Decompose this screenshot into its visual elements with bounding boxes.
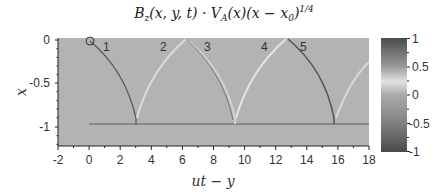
y-tick-neg0.5: -0.5 — [29, 76, 50, 90]
x-axis-label: ut − y — [191, 173, 235, 189]
svg-text:8: 8 — [210, 153, 217, 167]
colorbar — [381, 38, 407, 152]
x-axis — [58, 146, 369, 150]
svg-text:4: 4 — [148, 153, 155, 167]
colorbar-label-neg0.5: -0.5 — [409, 117, 430, 131]
wavefront-label-4: 4 — [261, 40, 268, 54]
svg-text:0: 0 — [86, 153, 93, 167]
svg-text:10: 10 — [238, 153, 252, 167]
wavefront-label-5: 5 — [300, 40, 307, 54]
colorbar-ticks — [407, 39, 410, 152]
colorbar-label-0.5: 0.5 — [412, 60, 429, 74]
chart-svg: 1 2 3 4 5 0 -0.5 -1 x — [0, 0, 448, 195]
svg-text:2: 2 — [117, 153, 124, 167]
y-tick-0: 0 — [43, 33, 50, 47]
wavefront-label-3: 3 — [204, 40, 211, 54]
svg-text:14: 14 — [300, 153, 314, 167]
svg-text:16: 16 — [331, 153, 345, 167]
svg-text:18: 18 — [362, 153, 376, 167]
x-tick-labels: -2 0 2 4 6 8 10 12 14 16 18 — [53, 153, 376, 167]
colorbar-label-1: 1 — [412, 32, 419, 46]
colorbar-label-neg1: -1 — [409, 145, 420, 159]
y-tick-neg1: -1 — [39, 120, 50, 134]
wavefront-label-1: 1 — [103, 40, 110, 54]
y-axis-label: x — [13, 88, 29, 96]
wavefront-label-2: 2 — [160, 40, 167, 54]
colorbar-label-0: 0 — [412, 88, 419, 102]
svg-text:-2: -2 — [53, 153, 64, 167]
y-axis — [55, 38, 58, 146]
svg-text:6: 6 — [179, 153, 186, 167]
svg-text:12: 12 — [269, 153, 283, 167]
